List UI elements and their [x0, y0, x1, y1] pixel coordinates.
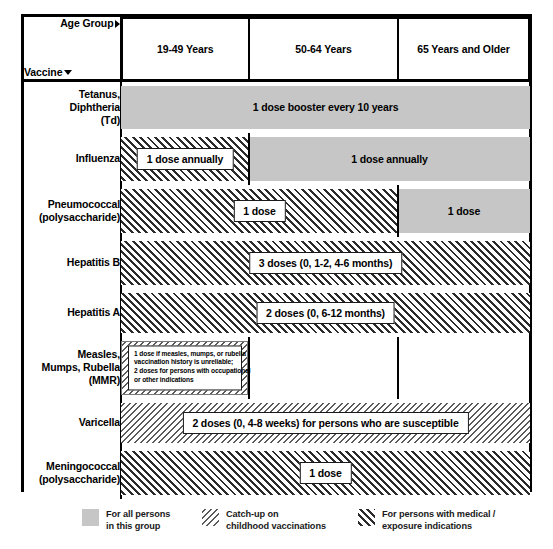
arrow-down-icon — [64, 70, 72, 75]
vaccine-label: Vaccine — [24, 66, 62, 78]
cell-mmr-50-64 — [249, 337, 398, 399]
cell-text-tetanus: 1 dose booster every 10 years — [122, 101, 529, 113]
vaccine-name-mmr: Measles,Mumps, Rubella(MMR) — [24, 337, 121, 399]
cell-pneumococcal-65-plus: 1 dose — [398, 185, 529, 237]
cell-text-meningococcal: 1 dose — [299, 462, 351, 484]
table-row-meningococcal: Meningococcal(polysaccharide) 1 dose — [24, 447, 529, 499]
cell-meningococcal-all-ages: 1 dose — [121, 447, 529, 499]
legend-item-medical: For persons with medical /exposure indic… — [358, 508, 495, 532]
legend-swatch-solid-icon — [82, 509, 99, 526]
vaccine-name-varicella: Varicella — [24, 399, 121, 447]
age-group-header: Age Group — [24, 18, 120, 30]
cell-hepatitis-a-all-ages: 2 doses (0, 6-12 months) — [121, 289, 529, 337]
mmr-note-line-3: 2 doses for persons with occupational — [134, 368, 236, 377]
legend-swatch-medical-icon — [358, 509, 375, 526]
cell-text-influenza-50-plus: 1 dose annually — [250, 153, 529, 165]
legend: For all personsin this group Catch-up on… — [21, 505, 532, 539]
cell-text-varicella: 2 doses (0, 4-8 weeks) for persons who a… — [182, 412, 468, 434]
vaccine-name-pneumococcal: Pneumococcal(polysaccharide) — [24, 185, 121, 237]
vaccine-name-tetanus: Tetanus,Diphtheria(Td) — [24, 81, 121, 133]
column-header-65-plus: 65 Years and Older — [398, 18, 529, 81]
cell-mmr-65-plus — [398, 337, 529, 399]
legend-item-catch-up: Catch-up onchildhood vaccinations — [202, 508, 326, 532]
legend-label-medical: For persons with medical /exposure indic… — [382, 508, 495, 532]
cell-text-pneumococcal-65-plus: 1 dose — [399, 205, 529, 217]
column-header-50-64: 50-64 Years — [249, 18, 398, 81]
table-row-hepatitis-b: Hepatitis B 3 doses (0, 1-2, 4-6 months) — [24, 237, 529, 289]
table-header-row: Age Group Vaccine 19-49 Years 50-64 Year… — [24, 18, 529, 81]
vaccine-name-hepatitis-b: Hepatitis B — [24, 237, 121, 289]
header-corner-cell: Age Group Vaccine — [24, 18, 121, 81]
cell-pneumococcal-19-64: 1 dose — [121, 185, 398, 237]
table-row-tetanus: Tetanus,Diphtheria(Td) 1 dose booster ev… — [24, 81, 529, 133]
cell-note-mmr-19-49: 1 dose if measles, mumps, or rubella vac… — [128, 345, 242, 390]
cell-influenza-50-plus: 1 dose annually — [249, 133, 529, 185]
table-row-varicella: Varicella 2 doses (0, 4-8 weeks) for per… — [24, 399, 529, 447]
column-header-19-49: 19-49 Years — [121, 18, 249, 81]
schedule-table: Age Group Vaccine 19-49 Years 50-64 Year… — [24, 17, 530, 499]
mmr-note-line-2: vaccination history is unreliable; — [134, 359, 236, 368]
vaccine-name-hepatitis-a: Hepatitis A — [24, 289, 121, 337]
vaccine-name-meningococcal: Meningococcal(polysaccharide) — [24, 447, 121, 499]
vaccine-name-influenza: Influenza — [24, 133, 121, 185]
cell-text-pneumococcal-19-64: 1 dose — [233, 200, 285, 222]
schedule-grid: Age Group Vaccine 19-49 Years 50-64 Year… — [21, 14, 532, 492]
cell-text-hepatitis-b: 3 doses (0, 1-2, 4-6 months) — [249, 252, 403, 274]
cell-mmr-19-49: 1 dose if measles, mumps, or rubella vac… — [121, 337, 249, 399]
legend-item-all-persons: For all personsin this group — [82, 508, 170, 532]
cell-hepatitis-b-all-ages: 3 doses (0, 1-2, 4-6 months) — [121, 237, 529, 289]
immunization-schedule-table: Age Group Vaccine 19-49 Years 50-64 Year… — [0, 0, 553, 549]
vaccine-header: Vaccine — [24, 67, 120, 79]
table-row-influenza: Influenza 1 dose annually 1 dose annuall… — [24, 133, 529, 185]
arrow-right-icon — [115, 20, 120, 28]
mmr-note-line-4: or other indications — [134, 376, 236, 385]
table-row-mmr: Measles,Mumps, Rubella(MMR) 1 dose if me… — [24, 337, 529, 399]
table-row-hepatitis-a: Hepatitis A 2 doses (0, 6-12 months) — [24, 289, 529, 337]
cell-text-influenza-19-49: 1 dose annually — [137, 148, 234, 170]
cell-influenza-19-49: 1 dose annually — [121, 133, 249, 185]
table-row-pneumococcal: Pneumococcal(polysaccharide) 1 dose 1 do… — [24, 185, 529, 237]
cell-varicella-all-ages: 2 doses (0, 4-8 weeks) for persons who a… — [121, 399, 529, 447]
legend-swatch-catchup-icon — [202, 509, 219, 526]
legend-label-all-persons: For all personsin this group — [106, 508, 170, 532]
cell-text-hepatitis-a: 2 doses (0, 6-12 months) — [256, 302, 395, 324]
legend-label-catch-up: Catch-up onchildhood vaccinations — [226, 508, 326, 532]
age-group-label: Age Group — [60, 17, 113, 29]
cell-tetanus-all-ages: 1 dose booster every 10 years — [121, 81, 529, 133]
mmr-note-line-1: 1 dose if measles, mumps, or rubella — [134, 350, 236, 359]
